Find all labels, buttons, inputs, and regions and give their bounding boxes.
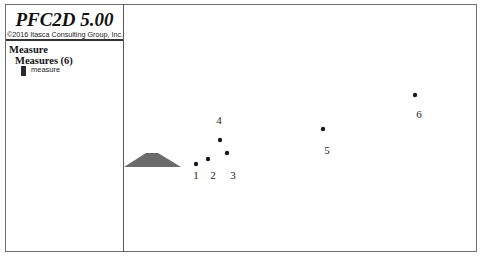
particle-pile bbox=[124, 153, 181, 167]
measure-label-2: 2 bbox=[210, 169, 216, 181]
measure-point-3 bbox=[225, 151, 229, 155]
title-rule bbox=[6, 39, 123, 41]
measure-label-4: 4 bbox=[216, 114, 222, 126]
measure-label-5: 5 bbox=[324, 144, 330, 156]
model-canvas[interactable]: 123456 bbox=[124, 5, 477, 252]
measure-label-6: 6 bbox=[416, 108, 422, 120]
measure-label-1: 1 bbox=[193, 169, 199, 181]
model-view[interactable]: 123456 bbox=[124, 5, 477, 252]
measure-point-6 bbox=[413, 93, 417, 97]
app-title: PFC2D 5.00 bbox=[6, 9, 123, 31]
copyright-text: ©2016 Itasca Consulting Group, Inc. bbox=[7, 30, 123, 39]
legend-item-label: measure bbox=[31, 65, 60, 74]
legend-section-title: Measure bbox=[9, 44, 48, 55]
measure-point-4 bbox=[218, 138, 222, 142]
measure-label-3: 3 bbox=[230, 169, 236, 181]
measure-point-2 bbox=[206, 157, 210, 161]
measure-point-1 bbox=[194, 162, 198, 166]
measure-point-5 bbox=[321, 127, 325, 131]
measure-swatch-icon bbox=[21, 66, 26, 76]
